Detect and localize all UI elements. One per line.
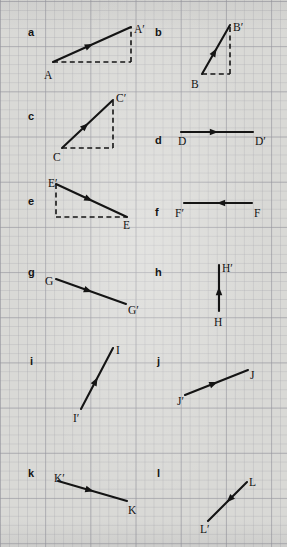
panel-h-point-label-0: H′	[222, 263, 233, 275]
panel-i-point-label-1: I′	[73, 413, 79, 425]
panel-letter-b: b	[155, 27, 162, 38]
panel-b-arrowhead	[210, 48, 217, 57]
panel-letter-j: j	[157, 356, 160, 367]
panel-h-arrowhead	[216, 287, 223, 295]
panel-k-point-label-0: K′	[54, 473, 65, 485]
panel-f-point-label-0: F′	[175, 208, 184, 220]
panel-letter-k: k	[28, 468, 34, 479]
panel-l-point-label-0: L	[249, 477, 256, 489]
panel-d-point-label-1: D′	[255, 136, 266, 148]
panel-k-point-label-1: K	[128, 505, 136, 517]
panel-i	[81, 348, 113, 409]
panel-l	[208, 482, 247, 521]
panel-letter-h: h	[155, 267, 162, 278]
panel-e-point-label-1: E	[123, 220, 130, 232]
panel-letter-c: c	[28, 111, 34, 122]
panel-c-point-label-1: C′	[116, 93, 126, 105]
panel-a-point-label-0: A	[44, 70, 52, 82]
panel-j-arrowhead	[209, 382, 218, 388]
panel-c-point-label-0: C	[53, 152, 61, 164]
panel-d	[181, 129, 253, 136]
panel-j-point-label-1: J′	[177, 396, 184, 408]
panel-l-point-label-1: L′	[200, 524, 210, 536]
panel-letter-f: f	[155, 207, 159, 218]
panel-a	[53, 27, 131, 62]
panel-letter-l: l	[157, 468, 160, 479]
panel-i-point-label-0: I	[116, 345, 120, 357]
panel-g-point-label-0: G	[45, 276, 53, 288]
panel-d-point-label-0: D	[178, 136, 186, 148]
panel-letter-a: a	[28, 27, 34, 38]
panel-letter-e: e	[28, 196, 34, 207]
panel-f	[184, 200, 252, 207]
worksheet-page: Translation Vectors aAA′bBB′cCC′dDD′eE′E…	[0, 0, 287, 547]
panel-k-arrowhead	[85, 486, 94, 492]
panel-a-arrowhead	[84, 44, 93, 50]
panel-e	[56, 184, 127, 217]
panel-f-point-label-1: F	[254, 208, 260, 220]
panel-j-point-label-0: J	[250, 370, 254, 382]
panel-d-arrowhead	[210, 129, 218, 136]
panel-c	[62, 100, 113, 148]
panel-letter-d: d	[155, 135, 162, 146]
panel-f-arrowhead	[217, 200, 225, 207]
panel-j	[185, 370, 248, 395]
panel-h-point-label-1: H	[214, 317, 222, 329]
panel-g-point-label-1: G′	[128, 305, 139, 317]
panel-g	[56, 279, 126, 304]
panel-e-point-label-0: E′	[48, 178, 58, 190]
panel-b	[202, 25, 230, 74]
vector-figures-layer	[0, 0, 287, 547]
panel-b-point-label-1: B′	[233, 22, 243, 34]
panel-k	[58, 481, 127, 501]
panel-letter-g: g	[28, 267, 35, 278]
panel-g-arrowhead	[83, 286, 92, 292]
panel-letter-i: i	[30, 356, 33, 367]
panel-e-arrowhead	[84, 194, 93, 201]
panel-i-arrowhead	[91, 377, 98, 386]
panel-a-point-label-1: A′	[134, 24, 145, 36]
panel-b-point-label-0: B	[191, 79, 199, 91]
